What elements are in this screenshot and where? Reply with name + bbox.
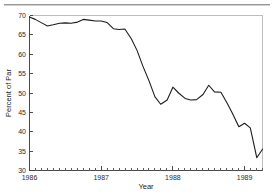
series-line-percent-of-par (30, 17, 263, 158)
axis-ticks (30, 16, 263, 171)
x-tick-label-1987: 1987 (93, 174, 109, 181)
chart-figure: 3035404550556065701986198719881989 Year … (0, 0, 274, 196)
x-tick-label-1988: 1988 (165, 174, 181, 181)
y-tick-label-70: 70 (18, 12, 26, 19)
axis-tick-labels: 3035404550556065701986198719881989 (18, 12, 252, 180)
y-tick-label-50: 50 (18, 90, 26, 97)
plot-frame-top-right (30, 16, 263, 171)
line-chart: 3035404550556065701986198719881989 Year … (0, 0, 274, 196)
y-axis-title: Percent of Par (4, 69, 13, 117)
y-tick-label-40: 40 (18, 128, 26, 135)
y-tick-label-45: 45 (18, 109, 26, 116)
x-axis-title: Year (138, 182, 154, 191)
x-tick-label-1989: 1989 (237, 174, 253, 181)
y-tick-label-65: 65 (18, 31, 26, 38)
y-tick-label-35: 35 (18, 148, 26, 155)
plot-frame (30, 16, 263, 171)
y-tick-label-55: 55 (18, 70, 26, 77)
y-tick-label-60: 60 (18, 51, 26, 58)
x-tick-label-1986: 1986 (22, 174, 38, 181)
plot-frame-left-bottom (30, 16, 263, 171)
